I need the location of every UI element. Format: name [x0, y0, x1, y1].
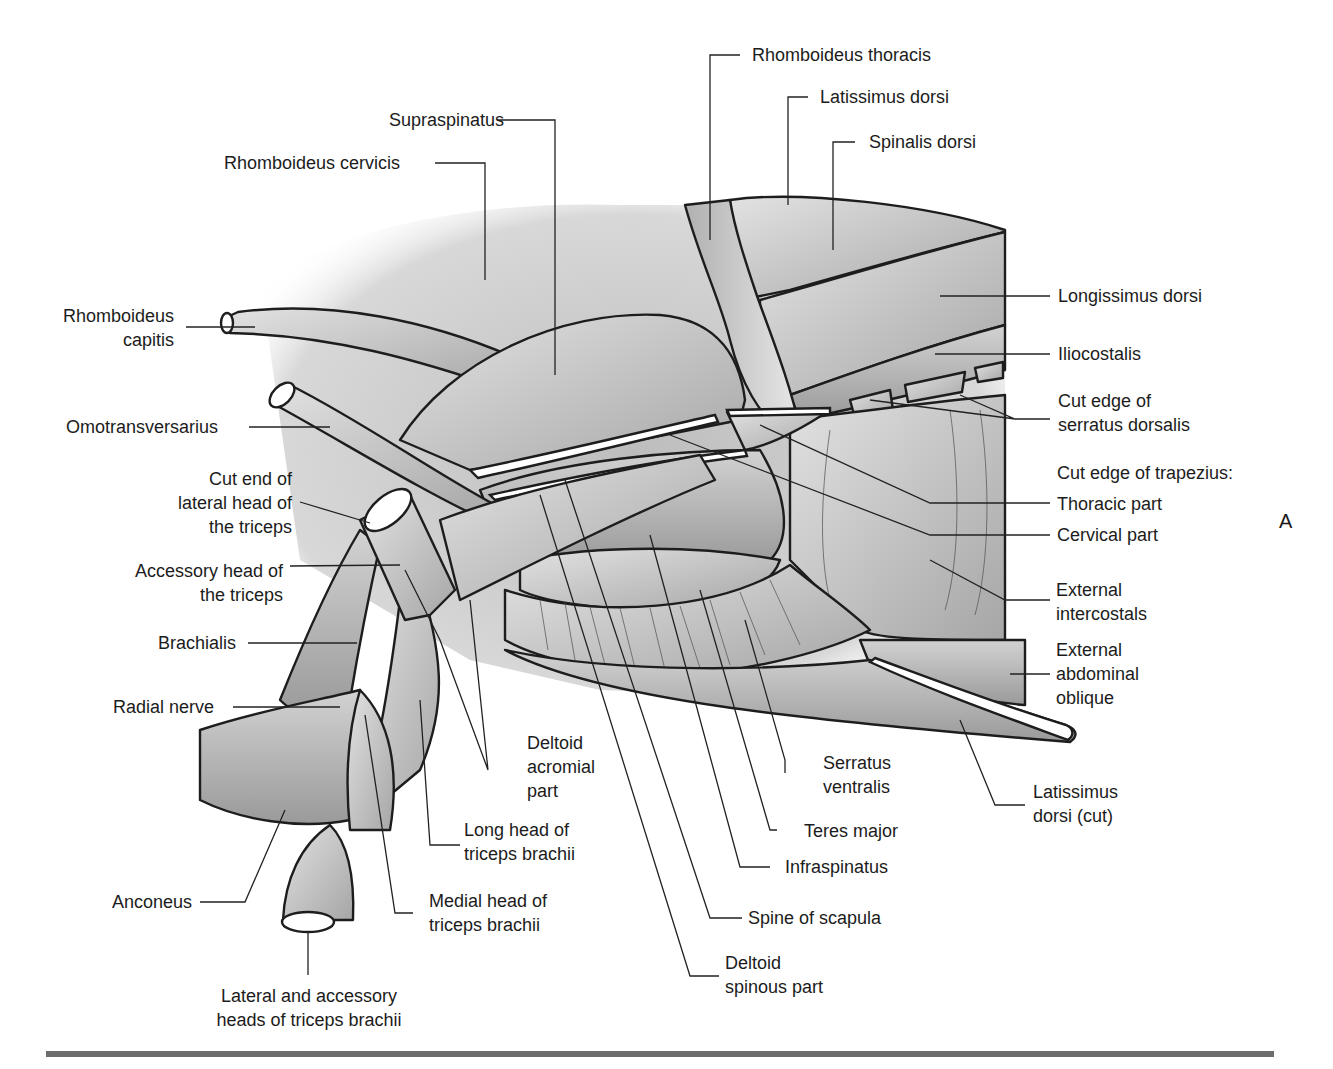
label-supraspinatus: Supraspinatus	[389, 108, 504, 132]
label-line: Accessory head of	[100, 559, 283, 583]
label-line: dorsi (cut)	[1033, 804, 1118, 828]
label-spinalis-dorsi: Spinalis dorsi	[869, 130, 976, 154]
forearm-muscles	[200, 690, 360, 824]
label-accessory-head: Accessory head of the triceps	[100, 559, 283, 607]
label-longissimus-dorsi: Longissimus dorsi	[1058, 284, 1202, 308]
lateral-accessory-stump	[283, 825, 353, 920]
label-deltoid-spinous: Deltoid spinous part	[725, 951, 823, 999]
label-line: part	[527, 779, 595, 803]
label-teres-major: Teres major	[804, 819, 898, 843]
label-rhomboideus-cervicis: Rhomboideus cervicis	[224, 151, 400, 175]
label-deltoid-acromial: Deltoid acromial part	[527, 731, 595, 803]
label-latissimus-dorsi: Latissimus dorsi	[820, 85, 949, 109]
label-cut-edge-trapezius: Cut edge of trapezius:	[1057, 461, 1233, 485]
label-line: acromial	[527, 755, 595, 779]
label-rhomboideus-capitis: Rhomboideus capitis	[40, 304, 174, 352]
label-line: Long head of	[464, 818, 575, 842]
label-line: Deltoid	[527, 731, 595, 755]
label-serratus-ventralis: Serratus ventralis	[823, 751, 891, 799]
label-line: Cut end of	[130, 467, 292, 491]
label-iliocostalis: Iliocostalis	[1058, 342, 1141, 366]
label-line: serratus dorsalis	[1058, 413, 1190, 437]
panel-letter: A	[1279, 510, 1292, 533]
label-line: the triceps	[130, 515, 292, 539]
label-external-intercostals: External intercostals	[1056, 578, 1147, 626]
label-thoracic-part: Thoracic part	[1057, 492, 1162, 516]
label-line: Latissimus	[1033, 780, 1118, 804]
label-line: intercostals	[1056, 602, 1147, 626]
label-line: abdominal	[1056, 662, 1139, 686]
label-line: External	[1056, 578, 1147, 602]
label-line: capitis	[40, 328, 174, 352]
label-infraspinatus: Infraspinatus	[785, 855, 888, 879]
label-line: Serratus	[823, 751, 891, 775]
label-line: Rhomboideus	[40, 304, 174, 328]
label-latissimus-dorsi-cut: Latissimus dorsi (cut)	[1033, 780, 1118, 828]
label-anconeus: Anconeus	[112, 890, 192, 914]
label-brachialis: Brachialis	[158, 631, 236, 655]
label-line: the triceps	[100, 583, 283, 607]
label-line: Medial head of	[429, 889, 547, 913]
label-omotransversarius: Omotransversarius	[66, 415, 218, 439]
label-line: oblique	[1056, 686, 1139, 710]
label-spine-of-scapula: Spine of scapula	[748, 906, 881, 930]
label-line: Deltoid	[725, 951, 823, 975]
label-long-head-triceps: Long head of triceps brachii	[464, 818, 575, 866]
label-line: triceps brachii	[464, 842, 575, 866]
label-line: Cut edge of	[1058, 389, 1190, 413]
bottom-divider	[46, 1051, 1274, 1057]
label-lateral-accessory-heads: Lateral and accessory heads of triceps b…	[190, 984, 428, 1032]
label-line: ventralis	[823, 775, 891, 799]
label-rhomboideus-thoracis: Rhomboideus thoracis	[752, 43, 931, 67]
label-line: triceps brachii	[429, 913, 547, 937]
label-cut-edge-serratus-dorsalis: Cut edge of serratus dorsalis	[1058, 389, 1190, 437]
label-line: lateral head of	[130, 491, 292, 515]
label-line: spinous part	[725, 975, 823, 999]
label-cut-end-lateral-head: Cut end of lateral head of the triceps	[130, 467, 292, 539]
label-radial-nerve: Radial nerve	[113, 695, 214, 719]
label-line: External	[1056, 638, 1139, 662]
label-external-abdominal-oblique: External abdominal oblique	[1056, 638, 1139, 710]
label-line: Lateral and accessory	[190, 984, 428, 1008]
label-medial-head-triceps: Medial head of triceps brachii	[429, 889, 547, 937]
label-cervical-part: Cervical part	[1057, 523, 1158, 547]
label-line: heads of triceps brachii	[190, 1008, 428, 1032]
